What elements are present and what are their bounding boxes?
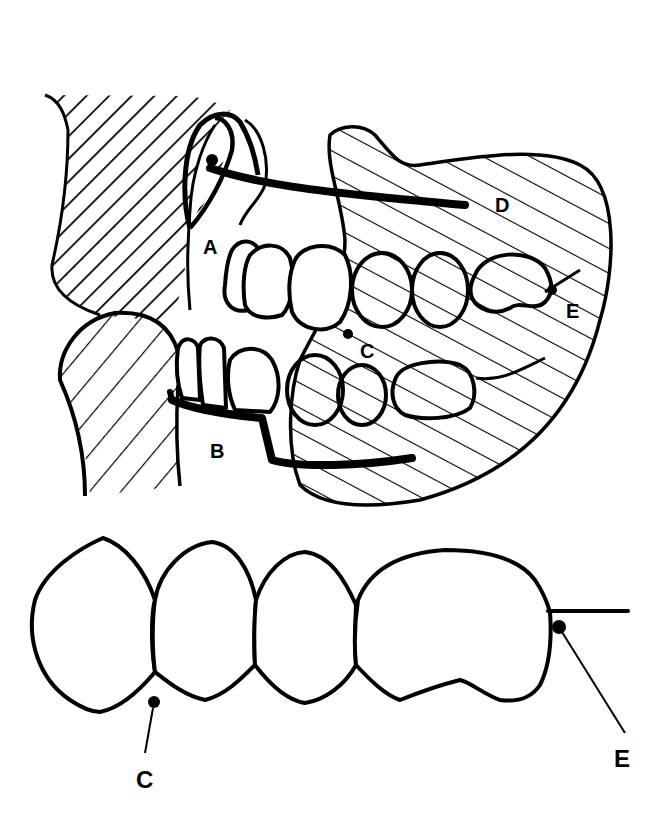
label-a: A xyxy=(203,236,217,258)
lower-illustration: C E xyxy=(32,538,630,793)
label-d: D xyxy=(495,194,509,216)
lower-teeth xyxy=(177,339,279,412)
lower-lip-region xyxy=(60,313,180,496)
lower-tooth xyxy=(199,339,226,408)
point-c-marker xyxy=(148,696,160,708)
upper-tooth xyxy=(244,246,293,318)
upper-teeth xyxy=(224,242,351,330)
lower-tooth xyxy=(177,339,200,400)
leader-c xyxy=(145,708,153,753)
wire-end xyxy=(170,392,172,400)
label-c-lower: C xyxy=(136,766,153,793)
wire-end xyxy=(206,154,218,166)
label-e-upper: E xyxy=(566,300,579,322)
retractor-a-outer xyxy=(240,120,266,225)
occlusal-tooth-2 xyxy=(153,542,256,700)
lower-tooth xyxy=(228,349,279,412)
occlusal-molar xyxy=(355,550,551,701)
label-b: B xyxy=(210,440,224,462)
occlusal-tooth-3 xyxy=(254,552,356,703)
occlusal-tooth-1 xyxy=(32,538,155,712)
label-e-lower: E xyxy=(614,745,630,772)
label-c-upper: C xyxy=(360,340,374,362)
upper-tooth xyxy=(289,246,351,329)
upper-illustration: A D E C B xyxy=(45,95,611,505)
point-e-marker xyxy=(552,620,566,634)
dental-diagram: A D E C B C E xyxy=(0,0,665,818)
leader-e xyxy=(562,632,625,733)
point-e-marker xyxy=(547,285,557,295)
point-c-marker xyxy=(343,329,353,339)
